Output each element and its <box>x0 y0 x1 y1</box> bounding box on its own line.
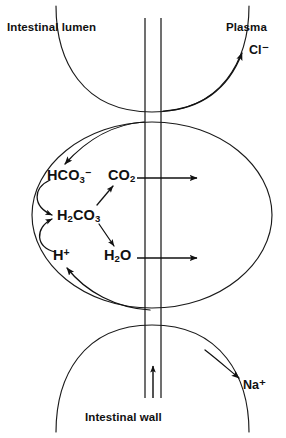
arrow-carbonic-acid-to-water <box>99 224 114 246</box>
label-sodium-ion: Na⁺ <box>243 379 266 392</box>
label-bicarbonate: HCO3− <box>47 168 91 184</box>
arrow-bicarbonate-to-carbonic-acid <box>37 180 52 215</box>
label-intestinal-wall: Intestinal wall <box>85 412 162 424</box>
label-carbon-dioxide: CO2 <box>108 168 135 184</box>
label-carbonic-acid: H2CO3 <box>57 208 100 224</box>
label-water: H2O <box>104 248 131 264</box>
label-intestinal-lumen: Intestinal lumen <box>7 22 96 34</box>
arrow-carbonic-acid-to-co2 <box>97 186 113 205</box>
transport-arrows <box>137 178 197 398</box>
cell-membrane <box>145 18 161 398</box>
label-chloride-ion: Cl⁻ <box>249 44 269 57</box>
label-plasma: Plasma <box>226 22 267 34</box>
diagram-root: Intestinal lumen Plasma Intestinal wall … <box>0 0 286 438</box>
arrow-sodium-efflux <box>205 350 239 378</box>
label-proton: H+ <box>53 248 70 263</box>
arrow-chloride-uptake <box>163 53 242 111</box>
diagram-canvas <box>0 0 286 438</box>
